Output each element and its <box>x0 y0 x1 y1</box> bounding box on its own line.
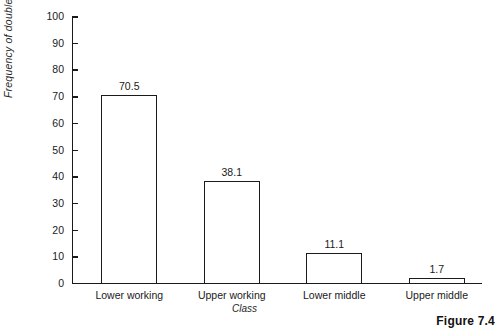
y-tick-mark <box>73 256 78 258</box>
x-tick-label: Upper working <box>198 289 266 301</box>
y-tick-mark <box>73 203 78 205</box>
y-tick-mark <box>73 176 78 178</box>
y-tick-label: 90 <box>52 37 64 49</box>
y-tick-label: 70 <box>52 90 64 102</box>
plot-area: 0102030405060708090100 70.538.111.11.7 L… <box>72 16 482 284</box>
y-tick-mark <box>73 150 78 152</box>
y-tick-label: 80 <box>52 63 64 75</box>
y-tick-mark <box>73 123 78 125</box>
y-tick-label: 60 <box>52 117 64 129</box>
bar-value-label: 1.7 <box>429 263 444 275</box>
bar-value-label: 38.1 <box>222 166 242 178</box>
bar: 1.7 <box>409 278 465 283</box>
y-tick-mark <box>73 96 78 98</box>
y-tick-label: 10 <box>52 250 64 262</box>
bar: 11.1 <box>306 253 362 283</box>
x-axis-line <box>72 283 482 284</box>
y-tick-label: 100 <box>46 10 64 22</box>
y-axis-label: Frequency of double negatives <box>2 0 14 98</box>
bar: 70.5 <box>101 95 157 283</box>
y-tick-label: 0 <box>58 277 64 289</box>
y-tick-mark <box>73 43 78 45</box>
x-tick-label: Upper middle <box>406 289 468 301</box>
x-tick-label: Lower middle <box>303 289 365 301</box>
x-tick-label: Lower working <box>95 289 163 301</box>
figure-container: Frequency of double negatives 0102030405… <box>0 0 503 332</box>
bar-value-label: 70.5 <box>119 80 139 92</box>
bar-value-label: 11.1 <box>324 238 344 250</box>
y-tick-label: 30 <box>52 197 64 209</box>
y-tick-label: 40 <box>52 170 64 182</box>
y-tick-label: 20 <box>52 224 64 236</box>
bar: 38.1 <box>204 181 260 283</box>
y-tick-mark <box>73 230 78 232</box>
y-tick-mark <box>73 16 78 18</box>
y-tick-label: 50 <box>52 144 64 156</box>
figure-caption: Figure 7.4 <box>436 314 495 328</box>
x-axis-label: Class <box>232 303 257 314</box>
y-tick-mark <box>73 69 78 71</box>
